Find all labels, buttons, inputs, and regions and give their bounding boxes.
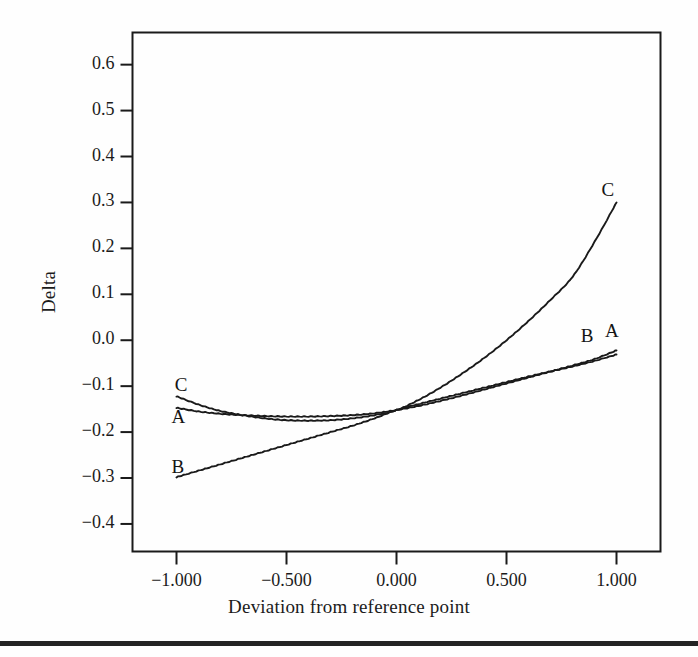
- x-axis-tick-label: 1.000: [562, 570, 672, 591]
- y-axis-tick-label: 0.3: [45, 190, 115, 211]
- curve-label-a-right: A: [605, 320, 619, 342]
- curve-label-c-right: C: [602, 179, 615, 201]
- curve-a: [177, 350, 617, 416]
- plot-frame: [133, 33, 661, 552]
- x-axis-tick-label: 0.500: [452, 570, 562, 591]
- y-axis-tick-label: −0.1: [45, 374, 115, 395]
- page-bottom-rule: [0, 641, 698, 646]
- x-axis-tick-label: −0.500: [232, 570, 342, 591]
- curve-label-c-left: C: [175, 374, 188, 396]
- curve-label-b-right: B: [581, 325, 594, 347]
- x-axis-ticks: [177, 552, 617, 565]
- y-axis-tick-label: 0.5: [45, 99, 115, 120]
- x-axis-tick-label: −1.000: [122, 570, 232, 591]
- curve-label-b-left: B: [172, 456, 185, 478]
- y-axis-tick-label: −0.4: [45, 512, 115, 533]
- x-axis-title: Deviation from reference point: [0, 596, 698, 618]
- y-axis-tick-label: 0.6: [45, 53, 115, 74]
- curve-c: [177, 203, 617, 421]
- y-axis-tick-label: 0.4: [45, 145, 115, 166]
- y-axis-tick-label: −0.3: [45, 466, 115, 487]
- figure-container: 0.60.50.40.30.20.10.0−0.1−0.2−0.3−0.4 −1…: [0, 0, 698, 657]
- data-curves: [177, 203, 617, 478]
- x-axis-tick-label: 0.000: [342, 570, 452, 591]
- curve-label-a-left: A: [172, 406, 186, 428]
- y-axis-tick-label: −0.2: [45, 420, 115, 441]
- y-axis-ticks: [121, 65, 133, 524]
- y-axis-title: Delta: [38, 232, 60, 352]
